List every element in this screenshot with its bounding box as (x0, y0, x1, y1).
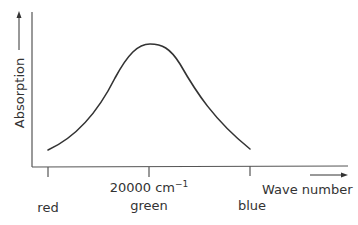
y-axis-arrow-icon (17, 11, 22, 50)
y-axis-label: Absorption (12, 58, 27, 128)
green-value-text: 20000 cm (110, 180, 175, 195)
tick-label-green-value: 20000 cm−1 (110, 179, 189, 195)
x-axis (32, 166, 348, 167)
tick-label-red: red (37, 200, 58, 215)
x-axis-label: Wave number (262, 182, 353, 197)
absorption-chart: Absorption Wave number red 20000 cm−1 gr… (0, 0, 358, 225)
absorption-curve (48, 44, 250, 150)
x-axis-arrow-icon (310, 173, 348, 178)
tick-label-green: green (130, 198, 168, 213)
tick-label-blue: blue (238, 198, 266, 213)
green-value-superscript: −1 (175, 179, 188, 189)
